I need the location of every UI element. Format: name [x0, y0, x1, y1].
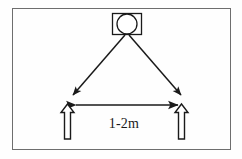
beam-right-arrow [129, 35, 181, 95]
beam-left-arrow [73, 35, 125, 95]
marker-right-hollow-arrow [175, 104, 188, 139]
sensor-unit [113, 14, 142, 35]
dimension-label: 1-2m [96, 116, 152, 132]
sensor-lens-circle [117, 14, 137, 34]
marker-left-hollow-arrow [61, 104, 74, 139]
diagram-canvas [0, 0, 242, 159]
figure-container: 1-2m [0, 0, 242, 159]
